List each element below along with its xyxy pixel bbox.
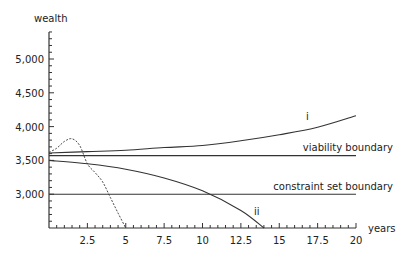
- x-tick-label: 2.5: [79, 235, 95, 246]
- y-tick-label: 4,500: [15, 88, 44, 99]
- y-tick-label: 3,500: [15, 155, 44, 166]
- x-tick-label: 17.5: [306, 235, 328, 246]
- x-tick-label: 20: [350, 235, 363, 246]
- wealth-chart: 3,0003,5004,0004,5005,0002.557.51012.515…: [0, 0, 408, 256]
- x-tick-label: 12.5: [230, 235, 252, 246]
- axes: 3,0003,5004,0004,5005,0002.557.51012.515…: [15, 32, 362, 246]
- y-tick-label: 3,000: [15, 189, 44, 200]
- y-tick-label: 5,000: [15, 54, 44, 65]
- constraint-boundary-label: constraint set boundary: [273, 181, 393, 192]
- x-axis-label: years: [368, 223, 396, 234]
- viability-boundary-label: viability boundary: [303, 142, 393, 153]
- curve-ii-label: ii: [254, 206, 260, 217]
- y-tick-label: 4,000: [15, 122, 44, 133]
- x-tick-label: 5: [123, 235, 129, 246]
- curve-i-label: i: [306, 111, 309, 122]
- x-tick-label: 15: [273, 235, 286, 246]
- y-axis-label: wealth: [34, 13, 68, 24]
- series-lines: [49, 116, 356, 228]
- x-tick-label: 7.5: [156, 235, 172, 246]
- x-tick-label: 10: [196, 235, 209, 246]
